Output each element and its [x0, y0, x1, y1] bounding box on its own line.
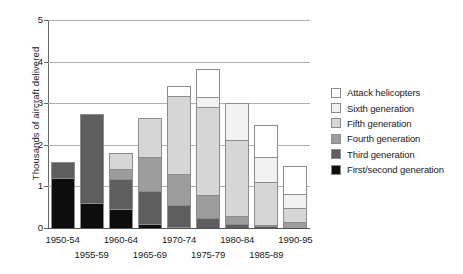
bar[interactable]	[51, 162, 75, 228]
bar-segment[interactable]	[196, 69, 220, 98]
x-tick-label: 1955-59	[75, 249, 109, 260]
bar[interactable]	[167, 86, 191, 228]
bar-segment[interactable]	[109, 153, 133, 170]
bar[interactable]	[225, 103, 249, 228]
legend-swatch-icon	[331, 149, 341, 159]
chart-legend: Attack helicoptersSixth generationFifth …	[331, 85, 461, 177]
legend-item[interactable]: Sixth generation	[331, 100, 461, 115]
bar-segment[interactable]	[138, 224, 162, 228]
y-tick-label: 0	[38, 223, 43, 233]
legend-item[interactable]: Attack helicopters	[331, 85, 461, 100]
y-tick-mark	[44, 228, 48, 229]
bar-segment[interactable]	[254, 182, 278, 226]
x-tick-label: 1965-69	[133, 249, 167, 260]
bar-segment[interactable]	[167, 205, 191, 228]
bar-segment[interactable]	[283, 208, 307, 223]
gridline	[48, 62, 310, 63]
bar-segment[interactable]	[138, 118, 162, 158]
bar-segment[interactable]	[283, 194, 307, 209]
bar-segment[interactable]	[109, 179, 133, 210]
bar-segment[interactable]	[196, 107, 220, 196]
bar-segment[interactable]	[167, 174, 191, 205]
bar-segment[interactable]	[51, 162, 75, 179]
legend-item[interactable]: Third generation	[331, 147, 461, 162]
x-tick-label: 1985-89	[249, 249, 283, 260]
bar-segment[interactable]	[254, 157, 278, 182]
y-tick-label: 3	[38, 98, 43, 108]
y-axis-line	[48, 20, 49, 228]
y-tick-mark	[44, 62, 48, 63]
bar-segment[interactable]	[283, 222, 307, 228]
bar-segment[interactable]	[196, 195, 220, 218]
y-tick-mark	[44, 20, 48, 21]
legend-item[interactable]: Fifth generation	[331, 116, 461, 131]
legend-swatch-icon	[331, 118, 341, 128]
legend-label: Sixth generation	[347, 103, 414, 114]
legend-item[interactable]: Fourth generation	[331, 131, 461, 146]
legend-label: Fourth generation	[347, 133, 420, 144]
gridline	[48, 20, 310, 21]
bar-segment[interactable]	[109, 209, 133, 228]
x-tick-label: 1975-79	[191, 249, 225, 260]
x-tick-label: 1970-74	[162, 234, 196, 245]
bar[interactable]	[254, 125, 278, 228]
bar[interactable]	[138, 118, 162, 228]
bar-segment[interactable]	[225, 103, 249, 140]
bar-segment[interactable]	[167, 96, 191, 175]
x-tick-label: 1960-64	[104, 234, 138, 245]
stacked-bar-chart: Thousands of aircraft delivered 012345 1…	[0, 0, 463, 274]
bar-segment[interactable]	[196, 218, 220, 228]
x-axis-labels: 1950-541955-591960-641965-691970-741975-…	[48, 232, 310, 272]
x-axis-line	[48, 228, 310, 229]
bar-segment[interactable]	[283, 166, 307, 195]
x-tick-label: 1950-54	[45, 234, 79, 245]
bar-segment[interactable]	[80, 203, 104, 228]
legend-swatch-icon	[331, 88, 341, 98]
legend-swatch-icon	[331, 103, 341, 113]
bar[interactable]	[80, 114, 104, 228]
bar-segment[interactable]	[167, 227, 191, 228]
bar-segment[interactable]	[254, 226, 278, 228]
legend-label: First/second generation	[347, 164, 444, 175]
y-tick-mark	[44, 186, 48, 187]
bar[interactable]	[109, 153, 133, 228]
x-tick-label: 1980-84	[220, 234, 254, 245]
y-tick-mark	[44, 145, 48, 146]
plot-area: 012345	[48, 20, 310, 228]
bar-segment[interactable]	[51, 178, 75, 228]
bar-segment[interactable]	[225, 140, 249, 217]
legend-label: Attack helicopters	[347, 87, 420, 98]
bar-segment[interactable]	[138, 157, 162, 192]
y-tick-label: 2	[38, 140, 43, 150]
y-tick-label: 4	[38, 57, 43, 67]
legend-swatch-icon	[331, 165, 341, 175]
bar-segment[interactable]	[80, 114, 104, 203]
bar-segment[interactable]	[225, 224, 249, 228]
x-tick-label: 1990-95	[278, 234, 312, 245]
legend-label: Fifth generation	[347, 118, 411, 129]
bar-segment[interactable]	[254, 125, 278, 158]
y-tick-mark	[44, 103, 48, 104]
bar[interactable]	[196, 69, 220, 228]
bar-segment[interactable]	[138, 191, 162, 224]
legend-label: Third generation	[347, 149, 415, 160]
y-tick-label: 5	[38, 15, 43, 25]
bar[interactable]	[283, 166, 307, 228]
y-tick-label: 1	[38, 182, 43, 192]
legend-swatch-icon	[331, 134, 341, 144]
legend-item[interactable]: First/second generation	[331, 162, 461, 177]
